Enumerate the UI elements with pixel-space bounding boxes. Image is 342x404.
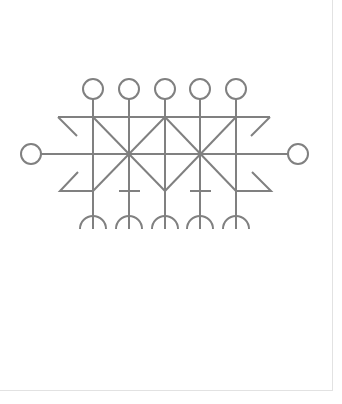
top-circles xyxy=(83,79,246,99)
right-circle-icon xyxy=(288,144,308,164)
circle-icon xyxy=(83,79,103,99)
hook-bottom-right xyxy=(236,172,271,191)
left-circle-icon xyxy=(21,144,41,164)
hook-top-left xyxy=(58,117,77,136)
crossing-dot xyxy=(198,152,202,156)
crossing-dot xyxy=(127,152,131,156)
circle-icon xyxy=(190,79,210,99)
hook-top-right xyxy=(251,117,270,136)
circle-icon xyxy=(119,79,139,99)
circle-icon xyxy=(226,79,246,99)
circle-icon xyxy=(155,79,175,99)
hook-bottom-left xyxy=(60,172,93,191)
symbol-diagram xyxy=(0,0,342,404)
